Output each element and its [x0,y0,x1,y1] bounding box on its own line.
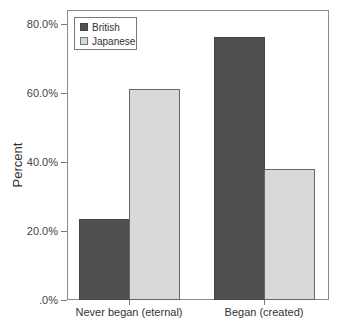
x-tick-began [264,300,265,305]
y-tick-label-20: 20.0% [27,225,58,237]
y-tick-60 [61,93,67,94]
y-tick-40 [61,162,67,163]
x-tick-never-began [129,300,130,305]
legend-item-british: British [80,21,120,33]
legend-swatch-japanese [80,37,88,45]
legend-item-japanese: Japanese [80,35,135,47]
bar-british-began [214,37,265,300]
x-tick-label-began: Began (created) [225,306,304,318]
legend: British Japanese [74,17,137,50]
y-axis-title: Percent [10,143,25,188]
legend-label-japanese: Japanese [92,36,135,47]
legend-swatch-british [80,23,88,31]
y-tick-label-0: .0% [39,294,58,306]
bar-japanese-never-began [129,89,180,300]
x-tick-label-never-began: Never began (eternal) [75,306,182,318]
bar-british-never-began [79,219,130,300]
y-tick-label-60: 60.0% [27,87,58,99]
y-tick-20 [61,231,67,232]
y-tick-80 [61,24,67,25]
y-tick-label-80: 80.0% [27,18,58,30]
legend-label-british: British [92,22,120,33]
y-tick-label-40: 40.0% [27,156,58,168]
y-tick-0 [61,300,67,301]
bar-japanese-began [264,169,315,300]
